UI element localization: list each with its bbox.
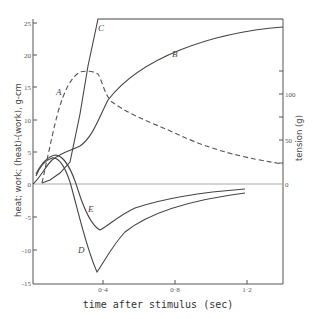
y2-tick-0: 0 (285, 181, 289, 189)
curve-e (36, 155, 245, 230)
y-tick-15: 15 (24, 84, 32, 92)
curve-d (36, 158, 245, 272)
label-d: D (77, 245, 85, 255)
label-a: A (55, 87, 62, 97)
x-ticks: 0·4 0·8 1·2 (98, 280, 252, 294)
curve-c (42, 19, 283, 183)
y-tick-m15: -15 (22, 280, 32, 288)
axes (33, 19, 283, 284)
x-axis-title: time after stimulus (sec) (83, 299, 234, 310)
y2-tick-100: 100 (285, 91, 296, 99)
x-tick-1.2: 1·2 (242, 286, 252, 294)
x-tick-0.4: 0·4 (98, 286, 108, 294)
label-b: B (172, 49, 178, 59)
y-tick-25: 25 (24, 20, 32, 28)
y-tick-10: 10 (24, 117, 32, 125)
left-y-ticks: 25 20 15 10 5 0 -5 -10 -15 (22, 20, 37, 288)
y2-tick-50: 50 (285, 137, 293, 145)
y-tick-0: 0 (28, 181, 32, 189)
y2-axis-title: tension (g) (294, 115, 304, 161)
chart: 25 20 15 10 5 0 -5 -10 -15 100 50 0 0·4 … (0, 0, 313, 319)
y-tick-m5: -5 (25, 214, 31, 222)
y-axis-title: heat; work; (heat)-(work), g-cm (13, 83, 23, 217)
label-e: E (87, 204, 94, 214)
curve-a (42, 71, 283, 183)
y-tick-20: 20 (24, 52, 32, 60)
y-tick-m10: -10 (22, 247, 32, 255)
x-tick-0.8: 0·8 (170, 286, 180, 294)
label-c: C (98, 23, 105, 33)
y-tick-5: 5 (28, 149, 32, 157)
